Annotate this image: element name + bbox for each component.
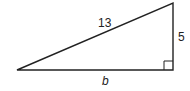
base-label: b xyxy=(102,74,109,88)
vertical-leg-label: 5 xyxy=(178,30,185,44)
right-triangle xyxy=(17,3,173,70)
triangle-diagram: 13 5 b xyxy=(0,0,190,91)
right-angle-marker xyxy=(164,61,173,70)
hypotenuse-label: 13 xyxy=(98,16,112,30)
